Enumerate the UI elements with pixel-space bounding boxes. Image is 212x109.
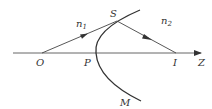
label-M: M <box>119 97 131 108</box>
label-Z: Z <box>197 57 206 68</box>
refracting-surface-curve <box>96 10 141 101</box>
label-P: P <box>83 57 91 68</box>
label-n2: n2 <box>161 15 172 28</box>
label-S: S <box>110 8 117 19</box>
label-I: I <box>172 57 178 68</box>
refraction-diagram: n1 n2 S O P I Z M <box>0 0 212 109</box>
label-O: O <box>36 57 44 68</box>
incident-ray-arrow-icon <box>80 34 88 39</box>
label-n1: n1 <box>76 18 87 31</box>
